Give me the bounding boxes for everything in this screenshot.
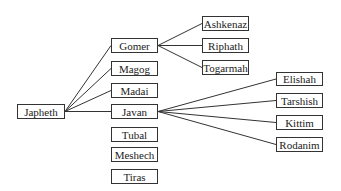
node-gomer: Gomer bbox=[111, 38, 158, 53]
edge-javan-elishah bbox=[158, 79, 276, 112]
node-magog: Magog bbox=[111, 61, 158, 76]
genealogy-diagram: Japheth Gomer Magog Madai Javan Tubal Me… bbox=[0, 0, 341, 191]
edge-japheth-magog bbox=[65, 69, 111, 112]
node-elishah: Elishah bbox=[276, 72, 323, 86]
node-kittim: Kittim bbox=[276, 115, 323, 130]
node-javan: Javan bbox=[111, 104, 158, 119]
node-tiras: Tiras bbox=[111, 169, 158, 184]
edge-gomer-ashkenaz bbox=[158, 24, 202, 46]
edge-javan-tarshish bbox=[158, 101, 276, 112]
edge-gomer-togarmah bbox=[158, 46, 202, 68]
node-madai: Madai bbox=[111, 83, 158, 98]
node-tubal: Tubal bbox=[111, 127, 158, 142]
node-ashkenaz: Ashkenaz bbox=[202, 16, 249, 31]
edge-japheth-gomer bbox=[65, 46, 111, 112]
node-togarmah: Togarmah bbox=[202, 60, 249, 75]
node-tarshish: Tarshish bbox=[276, 93, 323, 108]
edge-javan-kittim bbox=[158, 112, 276, 123]
edge-javan-rodanim bbox=[158, 112, 276, 145]
node-riphath: Riphath bbox=[202, 38, 249, 53]
node-japheth: Japheth bbox=[17, 104, 65, 119]
node-meshech: Meshech bbox=[111, 147, 158, 162]
node-rodanim: Rodanim bbox=[276, 137, 323, 152]
